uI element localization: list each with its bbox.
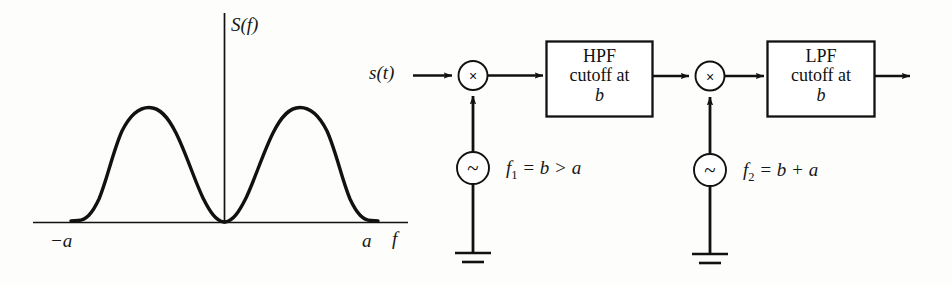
input-signal-label: s(t)	[369, 63, 394, 82]
lpf-line-3: b	[767, 86, 875, 105]
figure-canvas: × × ~ ~ S(f) −a a f s(t) HPF cutoff at b…	[0, 0, 952, 285]
hpf-line-1: HPF	[546, 47, 653, 66]
spectrum-tick-label-positive-a: a	[362, 231, 372, 250]
hpf-block-text: HPF cutoff at b	[546, 47, 653, 105]
hpf-line-3: b	[546, 86, 653, 105]
mixer-1-symbol: ×	[469, 68, 477, 84]
spectrum-horizontal-axis-label: f	[392, 229, 397, 248]
figure-vector-layer: × × ~ ~	[0, 0, 952, 285]
oscillator-2-freq-relation: = b + a	[755, 159, 819, 180]
lpf-block-text: LPF cutoff at b	[767, 47, 875, 105]
oscillator-2-symbol: ~	[704, 158, 715, 182]
oscillator-1-label: f1 = b > a	[506, 158, 581, 181]
oscillator-1-symbol: ~	[467, 156, 478, 180]
lpf-line-1: LPF	[767, 47, 875, 66]
hpf-line-2: cutoff at	[546, 66, 653, 85]
spectrum-vertical-axis-label: S(f)	[231, 15, 258, 34]
oscillator-2-label: f2 = b + a	[743, 160, 818, 183]
spectrum-tick-label-negative-a: −a	[50, 231, 72, 250]
mixer-2-symbol: ×	[706, 69, 714, 85]
lpf-line-2: cutoff at	[767, 66, 875, 85]
ground-symbol-2	[692, 254, 728, 263]
spectrum-axes	[33, 13, 408, 223]
ground-symbol-1	[455, 253, 491, 262]
oscillator-1-freq-relation: = b > a	[518, 157, 582, 178]
